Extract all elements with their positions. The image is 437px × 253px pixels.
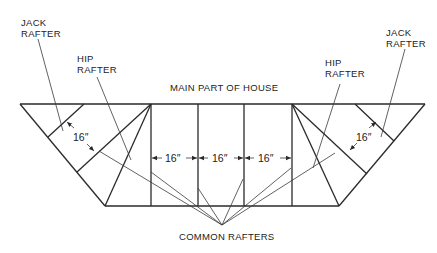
left-jack-spacing-dim: 16″ — [73, 131, 89, 143]
hip-rafter-left-label-1: HIP — [77, 53, 94, 64]
main-part-label: MAIN PART OF HOUSE — [170, 82, 278, 93]
hip-rafter-left-label-2: RAFTER — [77, 64, 117, 75]
hip-rafter-right-label-2: RAFTER — [325, 68, 365, 79]
common-rafters-label: COMMON RAFTERS — [179, 231, 275, 242]
common-spacing-3-dim: 16″ — [258, 152, 274, 164]
jack-rafter-left-label-2: RAFTER — [21, 28, 61, 39]
hip-rafter-right-label-1: HIP — [325, 57, 342, 68]
jack-rafter-left-label-1: JACK — [21, 17, 47, 28]
common-spacing-2-dim: 16″ — [212, 152, 228, 164]
right-hip-end — [292, 104, 394, 206]
left-hip-end — [48, 104, 151, 206]
jack-rafter-right-label-1: JACK — [386, 27, 412, 38]
right-jack-spacing-dim: 16″ — [356, 131, 372, 143]
jack-rafter-right-label-2: RAFTER — [386, 38, 426, 49]
hip-roof-diagram: JACK RAFTER HIP RAFTER MAIN PART OF HOUS… — [0, 0, 437, 253]
common-spacing-1-dim: 16″ — [165, 152, 181, 164]
